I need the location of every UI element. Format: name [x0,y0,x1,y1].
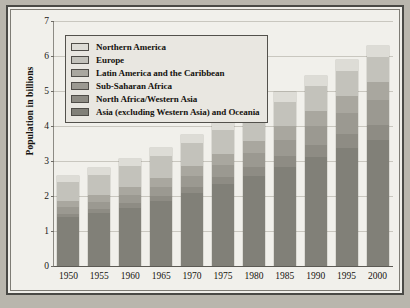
legend-item-label: Northern America [96,42,166,52]
legend-item[interactable]: North Africa/Western Asia [71,92,260,105]
bar-segment[interactable] [150,178,172,187]
bar-segment[interactable] [336,60,358,70]
legend-item-label: Europe [96,55,124,65]
legend-swatch [71,95,89,103]
stacked-bar[interactable] [181,135,203,266]
legend-item-label: North Africa/Western Asia [96,94,197,104]
legend-swatch [71,108,89,116]
bar-segment[interactable] [57,217,79,266]
stacked-bar[interactable] [274,92,296,266]
bar-segment[interactable] [88,195,110,202]
stacked-bar[interactable] [243,108,265,266]
bar-segment[interactable] [243,176,265,266]
bar-segment[interactable] [367,140,389,266]
y-axis-title: Population in billions [25,36,35,186]
bar-segment[interactable] [305,111,327,126]
bar-segment[interactable] [212,165,234,177]
stacked-bar[interactable] [88,168,110,266]
legend-item[interactable]: Northern America [71,40,260,53]
chart-inner-frame: Population in billions 01234567 19501955… [10,9,400,291]
x-tick-label: 1995 [337,271,356,281]
y-tick-label: 0 [44,261,49,271]
bar-segment[interactable] [305,76,327,86]
stacked-bar[interactable] [367,46,389,266]
bar-segment[interactable] [336,134,358,148]
bar-segment[interactable] [274,102,296,127]
bar-segment[interactable] [181,143,203,166]
stacked-bar[interactable] [57,176,79,266]
bar-segment[interactable] [367,57,389,83]
bar-segment[interactable] [119,195,141,203]
bar-segment[interactable] [305,86,327,111]
bar-segment[interactable] [181,135,203,143]
bar-segment[interactable] [274,140,296,156]
bar-segment[interactable] [305,145,327,157]
bar-segment[interactable] [212,154,234,165]
bar-segment[interactable] [150,148,172,156]
bar-segment[interactable] [274,167,296,266]
bar-segment[interactable] [150,187,172,196]
x-tick-label: 1955 [90,271,109,281]
x-tick-label: 1950 [59,271,78,281]
stacked-bar[interactable] [305,76,327,266]
y-tick-mark [51,266,54,267]
bar-segment[interactable] [150,201,172,266]
x-tick-label: 1970 [183,271,202,281]
bar-segment[interactable] [181,176,203,187]
bar-segment[interactable] [212,184,234,266]
bar-slot: 1990 [301,21,331,266]
bar-segment[interactable] [336,71,358,97]
stacked-bar[interactable] [336,60,358,266]
figure-canvas: Population in billions 01234567 19501955… [0,0,410,308]
bar-segment[interactable] [181,193,203,266]
legend-item-label: Sub-Saharan Africa [96,81,172,91]
legend-item-label: Asia (excluding Western Asia) and Oceani… [96,107,260,117]
y-tick-label: 5 [44,86,49,96]
bar-segment[interactable] [88,175,110,195]
legend-item[interactable]: Sub-Saharan Africa [71,79,260,92]
legend-item[interactable]: Europe [71,53,260,66]
stacked-bar[interactable] [119,159,141,266]
bar-segment[interactable] [88,202,110,209]
bar-segment[interactable] [181,166,203,176]
bar-segment[interactable] [243,141,265,154]
legend-item[interactable]: Latin America and the Caribbean [71,66,260,79]
bar-segment[interactable] [57,182,79,201]
x-tick-label: 1980 [244,271,263,281]
bar-segment[interactable] [274,126,296,140]
stacked-bar[interactable] [212,121,234,266]
bar-segment[interactable] [367,125,389,140]
chart-legend: Northern AmericaEuropeLatin America and … [65,35,268,123]
bar-segment[interactable] [212,177,234,184]
bar-segment[interactable] [336,148,358,266]
bar-segment[interactable] [150,156,172,178]
bar-segment[interactable] [274,156,296,166]
bar-segment[interactable] [336,113,358,134]
x-tick-label: 1975 [213,271,232,281]
bar-segment[interactable] [119,159,141,166]
bar-segment[interactable] [88,213,110,266]
legend-item-label: Latin America and the Caribbean [96,68,224,78]
bar-segment[interactable] [119,187,141,195]
bar-segment[interactable] [367,100,389,124]
bar-segment[interactable] [243,167,265,176]
bar-segment[interactable] [367,82,389,100]
bar-segment[interactable] [119,208,141,266]
x-tick-label: 1985 [275,271,294,281]
bar-segment[interactable] [305,126,327,145]
bar-segment[interactable] [336,96,358,113]
bar-segment[interactable] [305,157,327,266]
stacked-bar[interactable] [150,148,172,266]
bar-segment[interactable] [88,168,110,175]
bar-segment[interactable] [274,92,296,101]
bar-segment[interactable] [212,130,234,154]
legend-swatch [71,69,89,77]
bar-segment[interactable] [243,153,265,167]
bar-slot: 1995 [332,21,362,266]
legend-item[interactable]: Asia (excluding Western Asia) and Oceani… [71,105,260,118]
bar-segment[interactable] [367,46,389,57]
bar-segment[interactable] [119,166,141,187]
gridline [54,266,393,267]
chart-outer-frame: Population in billions 01234567 19501955… [6,5,404,295]
y-tick-label: 7 [44,16,49,26]
